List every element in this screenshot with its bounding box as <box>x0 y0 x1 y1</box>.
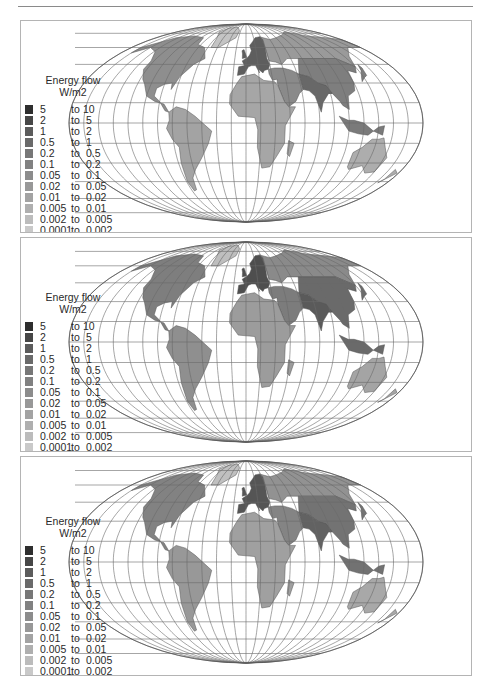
legend-swatch <box>25 105 33 114</box>
legend-unit: W/m2 <box>33 303 113 315</box>
legend-connector: to <box>71 666 80 676</box>
legend-swatch <box>25 149 33 158</box>
legend-swatch <box>25 568 33 577</box>
legend-swatch <box>25 204 33 213</box>
legend-swatch <box>25 590 33 599</box>
map-panel-3: Energy flowW/m25to102to51to20.5to10.2to0… <box>20 456 472 676</box>
legend-from: 0.0001 <box>40 666 72 676</box>
legend-swatch <box>25 171 33 180</box>
legend-swatch <box>25 333 33 342</box>
legend-connector: to <box>71 225 80 233</box>
legend-swatch <box>25 410 33 419</box>
region-japan <box>358 502 367 520</box>
legend-swatch <box>25 322 33 331</box>
legend-swatch <box>25 557 33 566</box>
legend: Energy flowW/m25to102to51to20.5to10.2to0… <box>25 21 135 233</box>
legend-swatch <box>25 366 33 375</box>
legend-to: 0.002 <box>86 666 112 676</box>
legend-swatch <box>25 377 33 386</box>
legend-swatch <box>25 421 33 430</box>
region-japan <box>358 283 367 301</box>
legend-swatch <box>25 355 33 364</box>
legend: Energy flowW/m25to102to51to20.5to10.2to0… <box>25 238 135 452</box>
legend-swatch <box>25 667 33 676</box>
legend: Energy flowW/m25to102to51to20.5to10.2to0… <box>25 457 135 676</box>
legend-swatch <box>25 344 33 353</box>
legend-swatch <box>25 215 33 224</box>
legend-swatch <box>25 138 33 147</box>
legend-row: 0.0001to0.002 <box>25 225 135 233</box>
map-panel-1: Energy flowW/m25to102to51to20.5to10.2to0… <box>20 20 472 233</box>
legend-swatch <box>25 443 33 452</box>
legend-swatch <box>25 601 33 610</box>
legend-title: Energy flow <box>33 291 113 303</box>
legend-swatch <box>25 116 33 125</box>
legend-swatch <box>25 193 33 202</box>
region-japan <box>358 64 367 81</box>
legend-to: 0.002 <box>86 225 112 233</box>
legend-from: 0.0001 <box>40 442 72 452</box>
legend-swatch <box>25 645 33 654</box>
legend-from: 0.0001 <box>40 225 72 233</box>
legend-swatch <box>25 634 33 643</box>
legend-to: 0.002 <box>86 442 112 452</box>
region-indonesia <box>339 116 384 135</box>
legend-swatch <box>25 127 33 136</box>
legend-connector: to <box>71 442 80 452</box>
legend-swatch <box>25 182 33 191</box>
legend-swatch <box>25 226 33 233</box>
legend-swatch <box>25 623 33 632</box>
legend-row: 0.0001to0.002 <box>25 666 135 676</box>
landmasses <box>131 464 397 631</box>
legend-swatch <box>25 160 33 169</box>
region-indonesia <box>339 335 384 354</box>
map-panel-2: Energy flowW/m25to102to51to20.5to10.2to0… <box>20 237 472 452</box>
legend-swatch <box>25 388 33 397</box>
legend-swatch <box>25 432 33 441</box>
legend-title: Energy flow <box>33 74 113 86</box>
legend-swatch <box>25 612 33 621</box>
legend-title: Energy flow <box>33 515 113 527</box>
legend-swatch <box>25 399 33 408</box>
top-rule <box>18 6 473 7</box>
legend-swatch <box>25 579 33 588</box>
legend-unit: W/m2 <box>33 86 113 98</box>
legend-swatch <box>25 546 33 555</box>
region-indonesia <box>339 555 384 574</box>
legend-swatch <box>25 656 33 665</box>
legend-row: 0.0001to0.002 <box>25 442 135 452</box>
landmasses <box>131 245 397 410</box>
landmasses <box>131 27 397 191</box>
legend-unit: W/m2 <box>33 527 113 539</box>
